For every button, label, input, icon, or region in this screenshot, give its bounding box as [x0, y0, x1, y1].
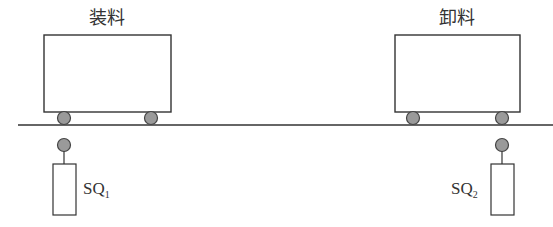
loading-title: 装料: [89, 7, 125, 28]
limit-switch-body-sq1: [53, 164, 76, 215]
cart-body-right: [395, 35, 520, 112]
cart-wheel-icon: [496, 112, 509, 125]
limit-switch-body-sq2: [491, 164, 514, 215]
unloading-title: 卸料: [439, 7, 475, 28]
unloading-station: 卸料 SQ2: [395, 7, 520, 215]
cart-body-left: [44, 35, 171, 112]
sensor-label-sq2: SQ2: [451, 179, 478, 200]
diagram-canvas: 装料 SQ1 卸料 SQ2: [0, 0, 553, 227]
cart-wheel-icon: [58, 112, 71, 125]
sensor-label-sq1: SQ1: [83, 179, 110, 200]
loading-station: 装料 SQ1: [44, 7, 171, 215]
limit-switch-roller-icon: [496, 139, 509, 152]
cart-wheel-icon: [145, 112, 158, 125]
limit-switch-roller-icon: [58, 139, 71, 152]
cart-wheel-icon: [407, 112, 420, 125]
